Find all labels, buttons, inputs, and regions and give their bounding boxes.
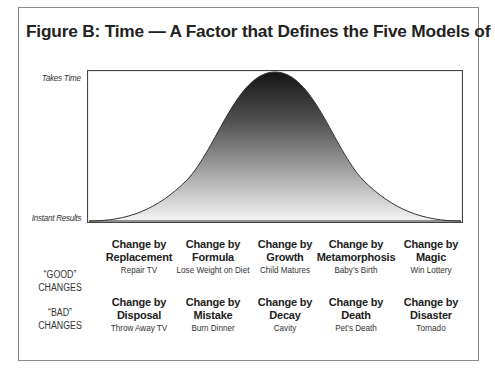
bell-curve-shape	[89, 72, 461, 221]
figure-title: Figure B: Time — A Factor that Defines t…	[26, 21, 466, 42]
good-changes-label: “GOOD” CHANGES	[30, 268, 90, 294]
model-magic: Change by Magic Win Lottery	[386, 238, 476, 276]
bad-changes-label: “BAD” CHANGES	[30, 306, 90, 332]
model-disaster: Change by Disaster Tornado	[386, 296, 476, 334]
bell-curve-chart	[87, 70, 463, 223]
y-axis-top-label: Takes Time	[42, 72, 81, 83]
y-axis-bottom-label: Instant Results	[31, 212, 81, 223]
